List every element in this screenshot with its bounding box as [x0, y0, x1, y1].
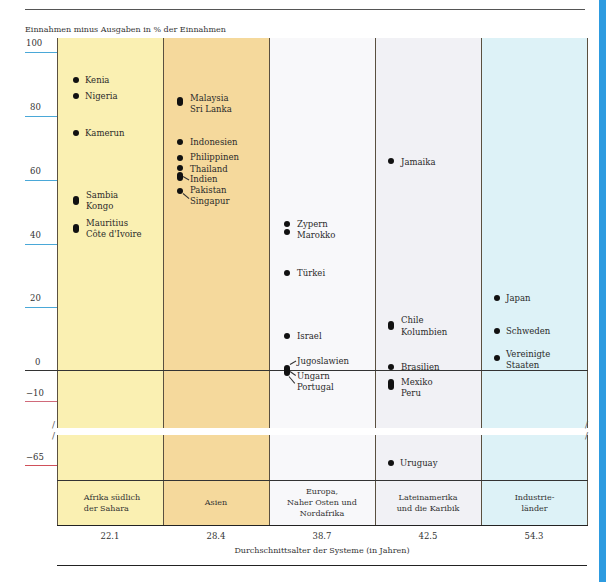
category-label: Europa, Naher Osten und Nordafrika: [269, 480, 375, 525]
data-point: [388, 321, 394, 330]
axis-break-mark-right: /: [585, 420, 588, 430]
data-point: [177, 139, 183, 145]
x-tick-label: 54.3: [481, 531, 587, 541]
data-point: [494, 355, 500, 361]
data-point: [388, 379, 394, 390]
y-tick: [25, 180, 57, 181]
y-tick-label: −65: [26, 452, 44, 462]
y-tick: [25, 52, 57, 53]
point-label: Malaysia: [190, 93, 229, 104]
data-point: [73, 130, 79, 136]
y-tick: [25, 307, 57, 308]
data-point: [73, 93, 79, 99]
point-label: Brasilien: [401, 362, 439, 373]
point-label: Indonesien: [190, 137, 237, 148]
point-label: Sri Lanka: [190, 104, 232, 115]
data-point: [284, 270, 290, 276]
point-label: Indien: [190, 174, 218, 185]
data-point: [284, 333, 290, 339]
point-label: Kamerun: [85, 128, 125, 139]
category-label: Industrie- länder: [481, 480, 588, 525]
y-tick: [25, 401, 57, 402]
point-label: Türkei: [297, 268, 325, 279]
data-point: [388, 364, 394, 370]
data-point: [494, 295, 500, 301]
y-tick-label: 80: [30, 102, 41, 112]
point-label: Philippinen: [190, 152, 239, 163]
point-label: Kenia: [85, 75, 109, 86]
y-tick-label: 20: [30, 293, 41, 303]
y-tick: [25, 244, 57, 245]
column-afrika: [57, 38, 163, 525]
point-label: Jugoslawien: [297, 356, 349, 367]
data-point: [388, 460, 394, 466]
point-label: Marokko: [297, 230, 335, 241]
data-point: [494, 328, 500, 334]
point-label: Côte d'Ivoire: [86, 229, 142, 240]
point-label: Mexiko: [401, 377, 433, 388]
category-label: Asien: [163, 480, 269, 525]
data-point: [284, 229, 290, 235]
x-tick-label: 38.7: [269, 531, 375, 541]
point-label: Israel: [297, 331, 322, 342]
data-point: [388, 158, 394, 164]
point-label: Kongo: [86, 201, 113, 212]
point-label: Zypern: [297, 219, 328, 230]
point-label: Japan: [506, 293, 530, 304]
point-label: Pakistan: [190, 185, 227, 196]
column-industrielaender: [481, 38, 588, 525]
axis-break-mark-right: /: [585, 431, 588, 441]
data-point: [73, 224, 79, 233]
point-label: Chile: [401, 315, 423, 326]
data-point: [177, 165, 183, 171]
data-point: [177, 97, 183, 106]
bottom-rule: [57, 565, 587, 566]
column-europa: [269, 38, 375, 525]
point-label: Singapur: [190, 196, 230, 207]
point-label: Mauritius: [86, 218, 128, 229]
page-edge-bar: [599, 0, 606, 582]
data-point: [284, 221, 290, 227]
x-tick-label: 22.1: [57, 531, 163, 541]
point-label: Nigeria: [85, 91, 117, 102]
axis-break-mark-left: /: [52, 420, 55, 430]
axis-break-gap: [55, 428, 590, 435]
top-rule: [25, 9, 585, 10]
y-tick-label: 0: [35, 357, 40, 367]
point-label: Portugal: [297, 382, 334, 393]
axis-break-mark-left: /: [52, 431, 55, 441]
point-label: Schweden: [506, 326, 550, 337]
x-tick-label: 42.5: [375, 531, 481, 541]
data-point: [177, 155, 183, 161]
point-label: Vereinigte: [506, 349, 550, 360]
y-tick-label: 40: [30, 230, 41, 240]
point-label: Peru: [401, 388, 421, 399]
y-tick-label: −10: [26, 388, 44, 398]
y-tick: [25, 465, 57, 466]
y-tick-label: 60: [30, 166, 41, 176]
y-tick-label: 100: [26, 38, 42, 48]
data-point: [73, 196, 79, 205]
point-label: Kolumbien: [401, 327, 447, 338]
category-label: Lateinamerika und die Karibik: [375, 480, 481, 525]
point-label: Jamaika: [401, 157, 436, 168]
point-label: Staaten: [506, 360, 539, 371]
column-lateinamerika: [375, 38, 481, 525]
category-label: Afrika südlich der Sahara: [57, 480, 163, 525]
data-point: [73, 77, 79, 83]
x-axis-label: Durchschnittsalter der Systeme (in Jahre…: [57, 546, 587, 555]
x-tick-label: 28.4: [163, 531, 269, 541]
point-label: Uruguay: [400, 458, 438, 469]
x-axis-line: [57, 525, 588, 526]
y-axis-label: Einnahmen minus Ausgaben in % der Einnah…: [25, 25, 226, 34]
point-label: Sambia: [86, 190, 118, 201]
y-tick: [25, 116, 57, 117]
point-label: Ungarn: [297, 371, 330, 382]
